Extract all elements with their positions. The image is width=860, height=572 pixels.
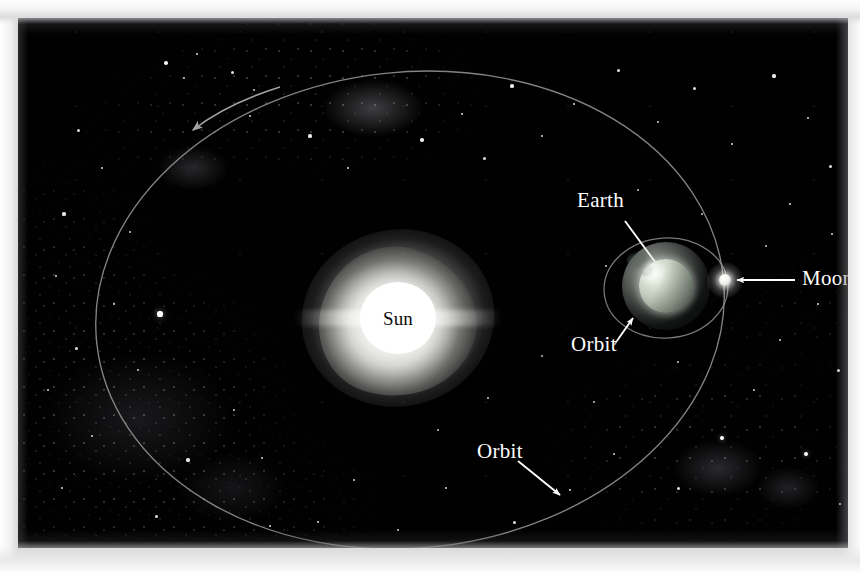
- figure-page: Sun Earth Moon Orbit Orbit: [0, 0, 860, 572]
- astronomy-photograph: Sun Earth Moon Orbit Orbit: [18, 18, 848, 548]
- moon-orbit-label: Orbit: [571, 334, 617, 355]
- earth-specular-highlight: [640, 261, 666, 285]
- earth-orbit-label: Orbit: [477, 441, 523, 462]
- moon-label: Moon: [802, 268, 848, 289]
- orbit-direction-arrow-icon: [193, 87, 280, 130]
- sun-disc: Sun: [360, 282, 436, 354]
- moon-disc: [719, 274, 731, 286]
- earth-orbit-callout-arrow: [518, 461, 560, 495]
- earth-label: Earth: [577, 190, 624, 211]
- sun-label: Sun: [383, 309, 413, 328]
